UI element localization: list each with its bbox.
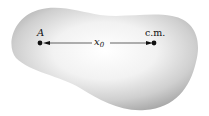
center-of-mass-dot [152,41,157,46]
irregular-body-shape [11,8,198,110]
point-a-label: A [36,27,44,38]
center-of-mass-label: c.m. [145,27,165,38]
point-a-dot [38,41,43,46]
rigid-body-diagram: A c.m. x0 [0,0,209,116]
distance-subscript: 0 [100,41,105,49]
